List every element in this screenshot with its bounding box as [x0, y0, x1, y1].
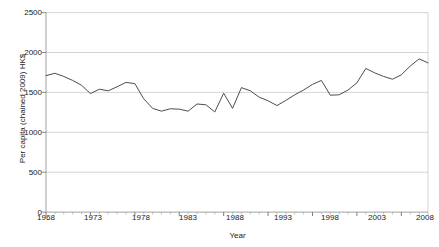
- chart-figure: Per capita (chained 2009) HK$ Year 0 500…: [0, 0, 439, 247]
- plot-border: [46, 13, 428, 213]
- x-axis-ticks: [46, 212, 428, 216]
- data-series-line: [46, 59, 428, 112]
- gridlines: [46, 13, 428, 173]
- plot-area: [0, 0, 439, 247]
- y-axis-ticks: [42, 13, 46, 213]
